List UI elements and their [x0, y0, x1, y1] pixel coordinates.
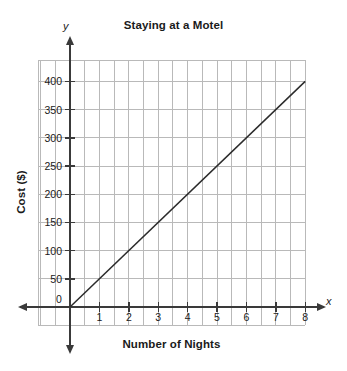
- x-tick-label: 8: [302, 311, 308, 323]
- x-axis-arrow-left: [18, 303, 27, 311]
- x-tick-label: 5: [214, 311, 220, 323]
- y-axis-label: Cost ($): [15, 142, 27, 242]
- y-tick-label: 50: [50, 273, 62, 285]
- y-tick-label: 250: [44, 160, 62, 172]
- x-tick-label: 1: [96, 311, 102, 323]
- grid-lines: [38, 60, 305, 325]
- plot-canvas: [0, 0, 347, 371]
- x-axis-arrow-right: [317, 303, 326, 311]
- y-tick-label: 200: [44, 188, 62, 200]
- x-tick-label: 6: [243, 311, 249, 323]
- y-axis-letter: y: [63, 20, 69, 32]
- x-tick-label: 7: [273, 311, 279, 323]
- x-axis-letter: x: [326, 295, 332, 307]
- chart-figure: Staying at a Motel Cost ($) Number of Ni…: [0, 0, 347, 371]
- axis-lines: [18, 36, 326, 354]
- y-axis-arrow-up: [66, 36, 74, 45]
- y-tick-label: 400: [44, 75, 62, 87]
- x-tick-label: 4: [185, 311, 191, 323]
- x-axis-label: Number of Nights: [38, 338, 305, 350]
- y-tick-label: 150: [44, 216, 62, 228]
- origin-label: 0: [56, 293, 62, 305]
- y-tick-label: 300: [44, 132, 62, 144]
- x-tick-label: 2: [126, 311, 132, 323]
- x-tick-label: 3: [155, 311, 161, 323]
- y-tick-label: 100: [44, 245, 62, 257]
- y-tick-label: 350: [44, 104, 62, 116]
- chart-title: Staying at a Motel: [0, 19, 347, 31]
